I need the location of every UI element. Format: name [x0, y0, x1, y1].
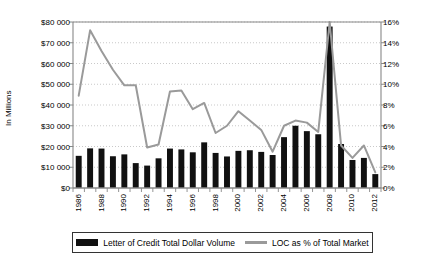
bar: [213, 153, 219, 188]
y-axis-right-tick-label: 16%: [383, 18, 399, 27]
y-axis-left-tick-label: $40 000: [41, 101, 70, 110]
y-axis-right-ticks: 16%14%12%10%8%6%4%2%0%: [383, 0, 439, 262]
legend-item-line: LOC as % of Total Market: [245, 238, 369, 248]
bar: [338, 144, 344, 188]
y-axis-right-tick-label: 8%: [383, 101, 395, 110]
y-axis-right-tick-label: 14%: [383, 38, 399, 47]
x-axis-tick-label: 1998: [211, 194, 220, 212]
bar: [304, 131, 310, 188]
x-axis-tick-label: 2010: [347, 194, 356, 212]
y-axis-left-tick-label: $70 000: [41, 38, 70, 47]
y-axis-left-ticks: $80 000$70 000$60 000$50 000$40 000$30 0…: [14, 0, 70, 262]
x-axis-tick-label: 1994: [165, 194, 174, 212]
y-axis-left-tick-label: $10 000: [41, 163, 70, 172]
bar: [76, 156, 82, 188]
gridlines: [73, 22, 381, 167]
x-axis-tick-label: 1992: [142, 194, 151, 212]
bar: [281, 137, 287, 188]
bar: [110, 156, 116, 188]
bar: [350, 160, 356, 188]
y-axis-left-tick-label: $20 000: [41, 142, 70, 151]
y-axis-right-tick-label: 4%: [383, 142, 395, 151]
x-axis-tick-label: 2012: [370, 194, 379, 212]
legend-item-bars: Letter of Credit Total Dollar Volume: [76, 238, 235, 248]
y-axis-right-tick-label: 6%: [383, 121, 395, 130]
x-axis-tick-label: 1986: [74, 194, 83, 212]
bar: [178, 149, 184, 188]
y-axis-left-tick-label: $0: [61, 184, 70, 193]
bar: [167, 149, 173, 188]
y-axis-right-tick-label: 12%: [383, 59, 399, 68]
y-axis-right-tick-label: 0%: [383, 184, 395, 193]
bar: [144, 166, 150, 188]
x-axis-tick-label: 1996: [188, 194, 197, 212]
bar: [292, 126, 298, 188]
chart-container: In Millions $80 000$70 000$60 000$50 000…: [0, 0, 442, 262]
bar: [270, 155, 276, 188]
x-axis-tick-label: 2002: [256, 194, 265, 212]
bar: [156, 158, 162, 188]
x-axis-tick-label: 2000: [233, 194, 242, 212]
line-swatch-icon: [245, 241, 267, 244]
bar: [247, 150, 253, 188]
bar: [315, 134, 321, 188]
legend-label-bars: Letter of Credit Total Dollar Volume: [103, 238, 235, 248]
bar: [361, 158, 367, 188]
y-axis-left-tick-label: $50 000: [41, 80, 70, 89]
y-axis-left-tick-label: $30 000: [41, 121, 70, 130]
bar: [190, 152, 196, 188]
chart-legend: Letter of Credit Total Dollar Volume LOC…: [72, 232, 373, 253]
bar: [235, 151, 241, 188]
x-axis-tick-label: 1988: [97, 194, 106, 212]
x-axis-tick-label: 2006: [302, 194, 311, 212]
y-axis-right-tick-label: 2%: [383, 163, 395, 172]
x-axis-tick-label: 1990: [119, 194, 128, 212]
bar: [133, 163, 139, 188]
x-axis-tick-label: 2004: [279, 194, 288, 212]
bar: [121, 154, 127, 188]
bar: [87, 148, 93, 188]
bar: [224, 156, 230, 188]
bar-swatch-icon: [76, 239, 98, 246]
bar: [372, 174, 378, 188]
bar: [258, 152, 264, 188]
legend-label-line: LOC as % of Total Market: [272, 238, 369, 248]
bar: [201, 142, 207, 188]
bar: [99, 149, 105, 188]
y-axis-left-tick-label: $60 000: [41, 59, 70, 68]
x-axis-tick-label: 2008: [325, 194, 334, 212]
y-axis-right-tick-label: 10%: [383, 80, 399, 89]
y-axis-left-tick-label: $80 000: [41, 18, 70, 27]
